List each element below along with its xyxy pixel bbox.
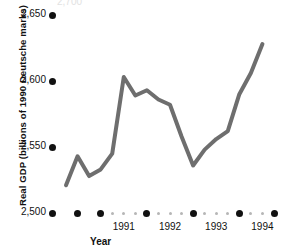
x-tick-dot-minor (111, 212, 114, 215)
x-tick-dot-minor (180, 212, 183, 215)
y-tick-dot (49, 12, 56, 19)
x-tick-dot-major (190, 210, 197, 217)
x-tick-dot-minor (134, 212, 137, 215)
y-tick-dot (49, 210, 56, 217)
x-tick-dot-major (74, 210, 81, 217)
x-tick-label: 1994 (251, 221, 273, 232)
x-axis-title: Year (90, 236, 111, 247)
x-tick-dot-minor (261, 212, 264, 215)
x-tick-dot-minor (157, 212, 160, 215)
x-tick-label: 1992 (159, 221, 181, 232)
x-tick-label: 1993 (205, 221, 227, 232)
x-tick-dot-minor (203, 212, 206, 215)
x-tick-dot-major (97, 210, 104, 217)
x-tick-label: 1991 (113, 221, 135, 232)
chart-figure: 2,700 Real GDP (billions of 1990 Deutsch… (0, 0, 285, 251)
y-tick-dot (49, 78, 56, 85)
x-tick-dot-major (236, 210, 243, 217)
x-tick-dot-major (143, 210, 150, 217)
x-tick-dot-minor (226, 212, 229, 215)
y-tick-dot (49, 144, 56, 151)
gdp-line-series (66, 44, 262, 185)
x-tick-dot-minor (215, 212, 218, 215)
x-tick-dot-minor (169, 212, 172, 215)
x-tick-dot-minor (122, 212, 125, 215)
x-tick-dot-major (271, 210, 278, 217)
